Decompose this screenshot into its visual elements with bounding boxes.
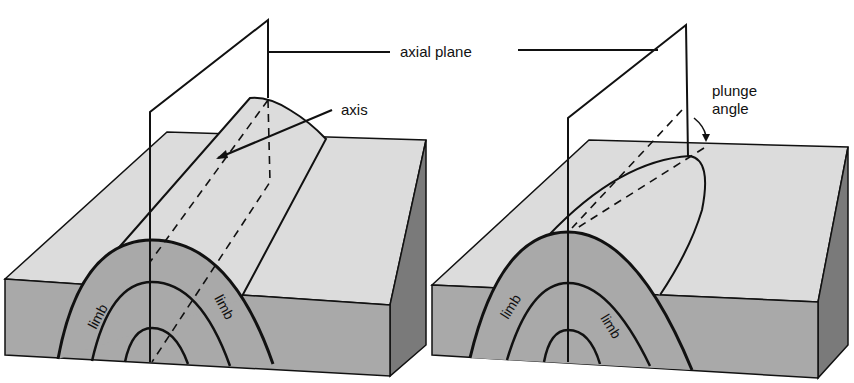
right-block [432, 25, 848, 378]
fold-diagram: axial plane axis plunge angle limb limb … [0, 0, 854, 383]
axis-label: axis [341, 101, 368, 118]
left-block [5, 20, 426, 376]
plunge-label-line2: angle [712, 100, 749, 117]
axial-plane-label: axial plane [400, 43, 472, 60]
plunge-label-line1: plunge [712, 82, 757, 99]
